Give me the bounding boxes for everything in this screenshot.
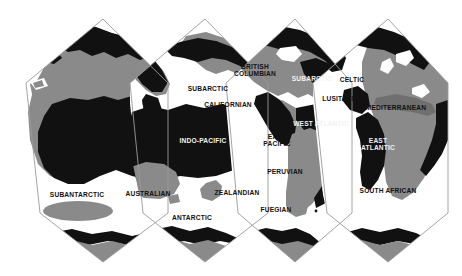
map-canvas bbox=[0, 0, 462, 276]
world-map-figure: ARCTICBRITISH COLUMBIANSUBARCTICCALIFORN… bbox=[0, 0, 462, 276]
